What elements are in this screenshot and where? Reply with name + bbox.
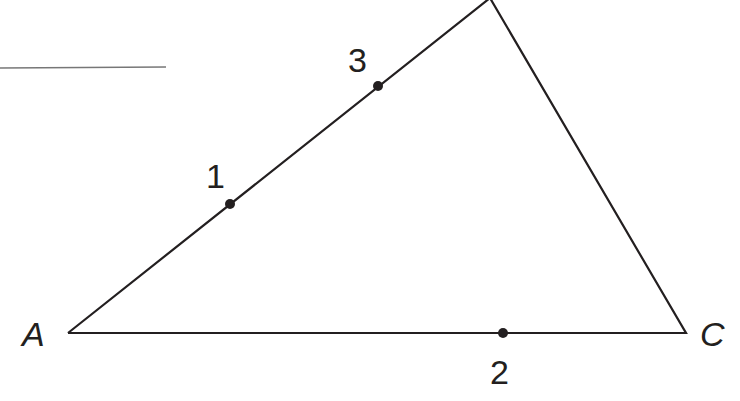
triangle-abc xyxy=(68,0,686,333)
triangle-diagram: A C 1 2 3 xyxy=(0,0,740,401)
point-label-2: 2 xyxy=(490,353,509,391)
vertex-label-c: C xyxy=(700,315,725,353)
point-3 xyxy=(373,81,383,91)
point-label-1: 1 xyxy=(206,157,225,195)
point-2 xyxy=(498,328,508,338)
answer-line xyxy=(0,67,166,68)
point-1 xyxy=(225,199,235,209)
point-label-3: 3 xyxy=(348,41,367,79)
vertex-label-a: A xyxy=(20,315,45,353)
